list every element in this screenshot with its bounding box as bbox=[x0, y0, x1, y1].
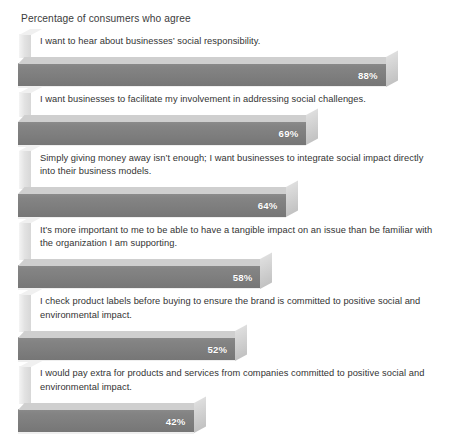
bar-segment[interactable]: 58% bbox=[18, 265, 260, 288]
bar-category-label: I check product labels before buying to … bbox=[30, 289, 445, 327]
bar-track: 64% bbox=[18, 188, 463, 218]
bar-end-face bbox=[235, 324, 247, 360]
bar-segment[interactable]: 42% bbox=[18, 409, 194, 432]
chart-row: I would pay extra for products and servi… bbox=[0, 361, 463, 433]
bar-top-face bbox=[18, 57, 392, 64]
bar-category-label: It’s more important to me to be able to … bbox=[30, 218, 445, 256]
chart-title: Percentage of consumers who agree bbox=[21, 13, 191, 24]
bar-category-label: I want businesses to facilitate my invol… bbox=[30, 87, 445, 111]
bar-top-face bbox=[18, 187, 292, 194]
bar-segment[interactable]: 52% bbox=[18, 337, 235, 360]
bar-end-face bbox=[194, 396, 206, 432]
bar-value-label: 88% bbox=[358, 69, 378, 80]
chart-row: I want to hear about businesses’ social … bbox=[0, 29, 463, 87]
bar-end-face bbox=[286, 181, 298, 217]
bar-category-label: Simply giving money away isn’t enough; I… bbox=[30, 146, 445, 184]
bar-value-label: 42% bbox=[166, 415, 186, 426]
bar-segment[interactable]: 88% bbox=[18, 63, 386, 86]
bar-end-face bbox=[260, 253, 272, 289]
bar-top-face bbox=[18, 403, 200, 410]
chart-row: I check product labels before buying to … bbox=[0, 289, 463, 361]
bar-top-face bbox=[18, 331, 242, 338]
bar-segment[interactable]: 64% bbox=[18, 194, 286, 217]
bar-value-label: 52% bbox=[208, 343, 228, 354]
chart-plot-area: I want to hear about businesses’ social … bbox=[0, 29, 463, 389]
bar-value-label: 58% bbox=[233, 271, 253, 282]
bar-category-label: I would pay extra for products and servi… bbox=[30, 361, 445, 399]
chart-row: It’s more important to me to be able to … bbox=[0, 218, 463, 290]
chart-row: Simply giving money away isn’t enough; I… bbox=[0, 146, 463, 218]
bar-top-face bbox=[18, 259, 267, 266]
bar-category-label: I want to hear about businesses’ social … bbox=[30, 29, 445, 53]
bar-end-face bbox=[386, 51, 398, 87]
bar-top-face bbox=[18, 115, 313, 122]
bar-value-label: 69% bbox=[279, 128, 299, 139]
bar-track: 88% bbox=[18, 57, 463, 87]
bar-end-face bbox=[306, 109, 318, 145]
bar-track: 58% bbox=[18, 259, 463, 289]
bar-value-label: 64% bbox=[258, 200, 278, 211]
bar-track: 69% bbox=[18, 116, 463, 146]
bar-track: 42% bbox=[18, 403, 463, 433]
bar-segment[interactable]: 69% bbox=[18, 122, 306, 145]
chart-row: I want businesses to facilitate my invol… bbox=[0, 87, 463, 145]
bar-track: 52% bbox=[18, 331, 463, 361]
